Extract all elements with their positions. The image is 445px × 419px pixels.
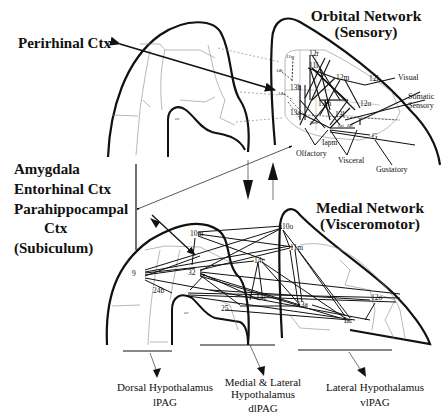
perirhinal-arrow — [120, 44, 275, 90]
node-10m: 10m — [190, 229, 204, 238]
node-14r-orb: 14r — [276, 68, 283, 73]
node-Iai-orb: Iai — [337, 123, 344, 128]
gustatory-label: Gustatory — [376, 166, 408, 174]
node-9: 9 — [132, 269, 136, 278]
medial-network-title: Medial Network (Visceromotor) — [300, 200, 440, 233]
medial-subtitle: (Visceromotor) — [300, 216, 440, 232]
node-12o-orb: 12o — [360, 99, 372, 108]
lateral-hypothalamus-label: Lateral Hypothalamus — [320, 382, 430, 394]
node-13b: 13b — [290, 83, 302, 92]
ctx-label: Ctx — [14, 221, 128, 237]
visceral-label: Visceral — [338, 157, 364, 165]
node-12r: 12r — [309, 49, 320, 58]
output-arrows — [123, 345, 392, 378]
node-13a-med: 13a — [297, 300, 309, 309]
medial-lateral-label: Medial & Lateral — [213, 377, 313, 389]
node-32: 32 — [188, 268, 196, 277]
node-14c-orb: 14c — [278, 91, 286, 96]
node-24b: 24b — [153, 286, 165, 295]
amygdala-label: Amygdala — [14, 162, 128, 178]
dlpag-label: dlPAG — [213, 403, 313, 415]
node-14r-med: 14r — [254, 256, 265, 265]
node-13m-orb: 13m — [318, 99, 332, 108]
top-left-brain-section — [108, 22, 282, 157]
node-11l: 11l — [309, 61, 318, 70]
sensory-label: Sensory — [408, 102, 434, 110]
amygdala-block: Amygdala Entorhinal Ctx Parahippocampal … — [14, 162, 128, 257]
olfactory-label: Olfactory — [296, 150, 327, 158]
cc-label-top: cc — [175, 116, 180, 121]
node-Ial: Ial — [346, 123, 353, 128]
node-13a-orb: 13a — [290, 108, 302, 117]
node-Iapm: Iapm — [322, 138, 338, 147]
hypothalamus-label: Hypothalamus — [213, 389, 313, 401]
node-11m-orb: 11m — [286, 54, 295, 59]
node-25: 25 — [221, 304, 229, 313]
orbital-network-title: Orbital Network (Sensory) — [296, 8, 436, 41]
node-Iai-med: Iai — [344, 316, 352, 325]
node-12m: 12m — [336, 73, 350, 82]
node-10o: 10o — [282, 222, 294, 231]
output-lateral: Lateral Hypothalamus vlPAG — [320, 382, 430, 408]
node-12l: 12l — [369, 74, 379, 83]
cc-label-bottom: cc — [184, 310, 189, 315]
perirhinal-ctx-label: Perirhinal Ctx — [18, 36, 111, 52]
dorsal-hypothalamus-label: Dorsal Hypothalamus — [110, 382, 220, 394]
entorhinal-label: Entorhinal Ctx — [14, 182, 128, 198]
node-11m-med: 11m — [290, 243, 303, 252]
node-12o-med: 12o — [371, 293, 383, 302]
vlpag-label: vlPAG — [320, 397, 430, 409]
medial-network-connections — [145, 226, 400, 320]
visual-label: Visual — [398, 74, 418, 82]
node-Iam: Iam — [309, 120, 318, 125]
node-G: G — [372, 132, 378, 141]
medial-title: Medial Network — [300, 200, 440, 216]
output-dorsal: Dorsal Hypothalamus lPAG — [110, 382, 220, 408]
subiculum-label: (Subiculum) — [14, 241, 128, 257]
parahippocampal-label: Parahippocampal — [14, 202, 128, 218]
network-arrows — [243, 160, 278, 200]
node-14c-med: 14c — [256, 293, 268, 302]
lpag-label: lPAG — [110, 397, 220, 409]
orbital-subtitle: (Sensory) — [296, 24, 436, 40]
node-13l: 13l — [335, 110, 345, 119]
output-medial-lateral: Medial & Lateral Hypothalamus dlPAG — [213, 377, 313, 415]
orbital-title: Orbital Network — [296, 8, 436, 24]
